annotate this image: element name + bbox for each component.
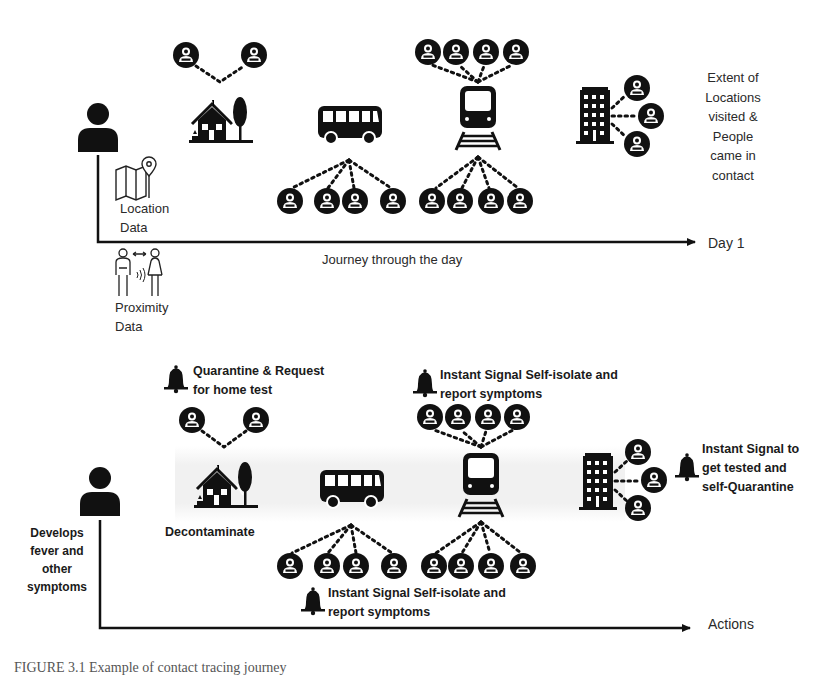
extent-label-line: visited & <box>690 107 776 127</box>
decontaminate-label: Decontaminate <box>165 522 255 542</box>
office-building-icon <box>576 87 614 144</box>
contact-person-icon <box>173 42 199 68</box>
bell-alert-icon <box>301 587 325 615</box>
contact-person-icon <box>448 553 474 579</box>
contact-person-icon <box>503 39 529 65</box>
extent-label-line: People <box>690 127 776 147</box>
house-action-label: Quarantine & Request for home test <box>193 362 324 400</box>
contact-person-icon <box>277 188 303 214</box>
axis-label-actions: Actions <box>708 614 754 634</box>
user-person-icon <box>78 103 118 152</box>
contact-person-icon <box>478 188 504 214</box>
contact-person-icon <box>314 188 340 214</box>
label-line: Instant Signal Self-isolate and <box>440 366 618 385</box>
extent-label: Extent of Locations visited & People cam… <box>690 68 776 185</box>
contact-person-icon <box>381 553 407 579</box>
map-location-icon <box>116 157 156 200</box>
label-line: symptoms <box>18 578 96 596</box>
train-alert-label: Instant Signal Self-isolate and report s… <box>440 366 618 404</box>
contact-person-icon <box>625 439 651 465</box>
axis-label-day1: Day 1 <box>708 233 745 253</box>
label-line: Instant Signal to <box>702 440 799 459</box>
label-line: self-Quarantine <box>702 478 799 497</box>
contact-person-icon <box>473 39 499 65</box>
stop-building <box>579 439 699 521</box>
label-line: for home test <box>193 381 324 400</box>
contact-person-icon <box>417 404 443 430</box>
stop-train <box>415 39 533 214</box>
stop-house <box>179 407 269 508</box>
bell-alert-icon <box>164 365 188 393</box>
contact-person-icon <box>179 407 205 433</box>
contact-person-icon <box>419 188 445 214</box>
office-building-icon <box>579 453 617 510</box>
figure-caption: FIGURE 3.1 Example of contact tracing jo… <box>14 660 287 676</box>
label-line: get tested and <box>702 459 799 478</box>
stop-bus <box>277 106 406 214</box>
building-alert-label: Instant Signal to get tested and self-Qu… <box>702 440 799 497</box>
stop-building <box>576 75 664 157</box>
journey-label: Journey through the day <box>322 250 462 270</box>
contact-person-icon <box>638 103 664 129</box>
proximity-people-icon <box>116 249 162 296</box>
extent-label-line: came in <box>690 146 776 166</box>
contact-person-icon <box>478 553 504 579</box>
contact-person-icon <box>415 39 441 65</box>
contact-person-icon <box>624 131 650 157</box>
label-line: Instant Signal Self-isolate and <box>328 584 506 603</box>
label-line: Develops <box>18 524 96 542</box>
label-line: report symptoms <box>328 603 506 622</box>
bell-alert-icon <box>413 369 437 397</box>
label-line: Proximity <box>115 298 168 317</box>
label-line: Quarantine & Request <box>193 362 324 381</box>
contact-person-icon <box>625 495 651 521</box>
extent-label-line: contact <box>690 166 776 186</box>
label-line: report symptoms <box>440 385 618 404</box>
user-person-icon <box>80 467 120 516</box>
contact-person-icon <box>314 553 340 579</box>
extent-label-line: Locations <box>690 88 776 108</box>
contact-person-icon <box>507 188 533 214</box>
bell-alert-icon <box>675 453 699 481</box>
label-line: other <box>18 560 96 578</box>
contact-person-icon <box>475 404 501 430</box>
contact-person-icon <box>421 553 447 579</box>
label-line: Location <box>120 199 169 218</box>
extent-label-line: Extent of <box>690 68 776 88</box>
contact-person-icon <box>277 553 303 579</box>
location-data-label: Location Data <box>120 199 169 237</box>
train-icon <box>459 453 503 517</box>
person-symptoms-note: Develops fever and other symptoms <box>18 524 96 596</box>
contact-person-icon <box>624 75 650 101</box>
contact-person-icon <box>504 404 530 430</box>
contact-person-icon <box>443 39 469 65</box>
contact-person-icon <box>641 467 667 493</box>
bus-icon <box>318 106 382 144</box>
contact-person-icon <box>447 188 473 214</box>
stop-house <box>173 42 267 143</box>
bus-alert-label: Instant Signal Self-isolate and report s… <box>328 584 506 622</box>
contact-person-icon <box>243 407 269 433</box>
label-line: Data <box>120 218 169 237</box>
contact-person-icon <box>380 188 406 214</box>
contact-person-icon <box>241 42 267 68</box>
label-line: fever and <box>18 542 96 560</box>
train-icon <box>456 86 500 150</box>
contact-person-icon <box>445 404 471 430</box>
proximity-data-label: Proximity Data <box>115 298 168 336</box>
contact-person-icon <box>343 553 369 579</box>
bus-icon <box>320 470 384 508</box>
contact-person-icon <box>510 553 536 579</box>
label-line: Data <box>115 317 168 336</box>
contact-person-icon <box>342 188 368 214</box>
house-icon <box>194 462 258 508</box>
house-icon <box>189 97 253 143</box>
